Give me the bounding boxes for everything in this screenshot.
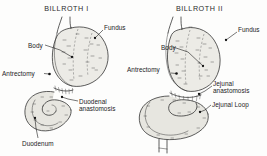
label-duodenum: Duodenum xyxy=(22,140,54,147)
label-fundus-billroth-1: Fundus xyxy=(104,24,126,31)
label-antrectomy-billroth-1: Antrectomy xyxy=(2,70,35,77)
label-body-billroth-1: Body xyxy=(28,42,43,49)
billroth-2-anatomy-drawing xyxy=(133,0,266,156)
billroth-diagram-figure: BILLROTH I xyxy=(0,0,267,156)
label-antrectomy-billroth-2: Antrectomy xyxy=(127,66,160,73)
label-duodenal-anastomosis: Duodenal anastomosis xyxy=(79,98,127,113)
panel-billroth-2: BILLROTH II xyxy=(133,0,266,156)
label-fundus-billroth-2: Fundus xyxy=(238,26,260,33)
panel-billroth-1: BILLROTH I xyxy=(0,0,133,156)
label-body-billroth-2: Body xyxy=(161,44,176,51)
label-jejunal-anastomosis: Jejunal anastomosis xyxy=(213,80,265,95)
label-jejunal-loop: Jejunal Loop xyxy=(212,101,249,108)
